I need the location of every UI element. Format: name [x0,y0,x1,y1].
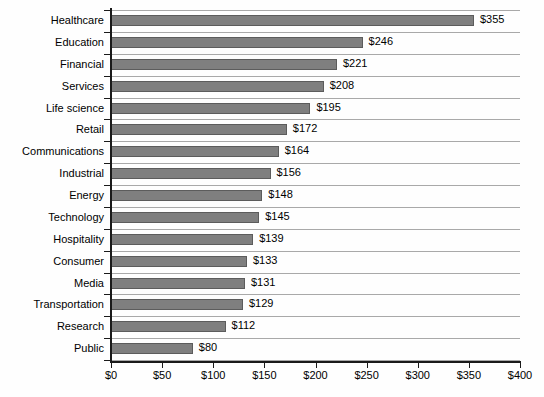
bar-row: $112 [111,316,520,338]
y-axis-tick [104,207,111,208]
bar-value-label: $156 [277,165,301,180]
bar-value-label: $112 [232,318,256,333]
bar-value-label: $145 [265,209,289,224]
x-axis-tick-labels: $0$50$100$150$200$250$300$350$400 [0,368,544,388]
bar-row: $156 [111,163,520,185]
y-axis-tick [104,10,111,11]
x-axis-tick [111,362,112,368]
bar-value-label: $164 [285,143,309,158]
category-label: Services [0,79,104,94]
x-axis-tick-label: $0 [105,368,117,383]
bar-row: $133 [111,251,520,273]
bar-value-label: $208 [330,78,354,93]
y-axis-tick [104,141,111,142]
bar [111,212,259,223]
category-label: Communications [0,144,104,159]
plot-area: $355$246$221$208$195$172$164$156$148$145… [111,10,520,360]
bar-row: $355 [111,10,520,32]
bar-value-label: $195 [316,100,340,115]
bar-row: $164 [111,141,520,163]
y-axis-category-labels: HealthcareEducationFinancialServicesLife… [0,10,104,360]
category-label: Research [0,319,104,334]
bar [111,234,253,245]
y-axis-tick [104,360,111,361]
y-axis-tick [104,98,111,99]
bar [111,37,363,48]
bar [111,103,310,114]
category-label: Technology [0,210,104,225]
category-label: Life science [0,101,104,116]
y-axis-tick [104,163,111,164]
x-axis-tick-label: $400 [508,368,532,383]
bar-row: $172 [111,119,520,141]
category-label: Retail [0,122,104,137]
y-axis-tick [104,76,111,77]
x-axis-tick-label: $150 [252,368,276,383]
category-label: Financial [0,57,104,72]
bar-row: $246 [111,32,520,54]
bar-value-label: $131 [251,275,275,290]
x-axis-tick [213,362,214,368]
x-axis-tick [162,362,163,368]
x-axis-tick-label: $200 [303,368,327,383]
bar [111,59,337,70]
x-axis-tick [469,362,470,368]
bar [111,190,262,201]
bar-value-label: $221 [343,56,367,71]
bar-row: $221 [111,54,520,76]
category-label: Hospitality [0,232,104,247]
bar [111,299,243,310]
y-axis-tick [104,229,111,230]
bar [111,81,324,92]
y-axis-tick [104,32,111,33]
x-axis-tick-label: $300 [406,368,430,383]
bar [111,256,247,267]
bar-row: $139 [111,229,520,251]
bar-row: $129 [111,294,520,316]
bar [111,15,474,26]
bar-row: $145 [111,207,520,229]
category-label: Healthcare [0,13,104,28]
bar-value-label: $246 [369,34,393,49]
y-axis-tick [104,316,111,317]
bar-chart: HealthcareEducationFinancialServicesLife… [0,0,544,397]
x-axis-tick [418,362,419,368]
bar [111,321,226,332]
bar-row: $208 [111,76,520,98]
bar [111,278,245,289]
category-label: Media [0,276,104,291]
category-label: Public [0,341,104,356]
y-axis-tick [104,119,111,120]
bar-row: $80 [111,338,520,360]
bar-row: $148 [111,185,520,207]
bar [111,124,287,135]
x-axis-tick [316,362,317,368]
x-axis-tick-label: $250 [354,368,378,383]
bar-value-label: $148 [268,187,292,202]
bar [111,343,193,354]
bar-value-label: $80 [199,340,217,355]
x-axis-tick [367,362,368,368]
category-label: Industrial [0,166,104,181]
y-axis-tick [104,185,111,186]
bar-value-label: $139 [259,231,283,246]
bar-value-label: $129 [249,296,273,311]
y-axis-tick [104,251,111,252]
x-axis-tick-label: $50 [153,368,171,383]
y-axis-tick [104,294,111,295]
bar-row: $131 [111,273,520,295]
bar-value-label: $133 [253,253,277,268]
x-axis-tick [520,362,521,368]
bar-row: $195 [111,98,520,120]
x-axis-tick-label: $350 [457,368,481,383]
bar-value-label: $172 [293,121,317,136]
category-label: Education [0,35,104,50]
category-label: Consumer [0,254,104,269]
x-axis-tick-label: $100 [201,368,225,383]
y-axis-tick [104,54,111,55]
x-axis-tick [264,362,265,368]
bar [111,168,271,179]
bar-value-label: $355 [480,12,504,27]
category-label: Transportation [0,297,104,312]
y-axis-tick [104,338,111,339]
